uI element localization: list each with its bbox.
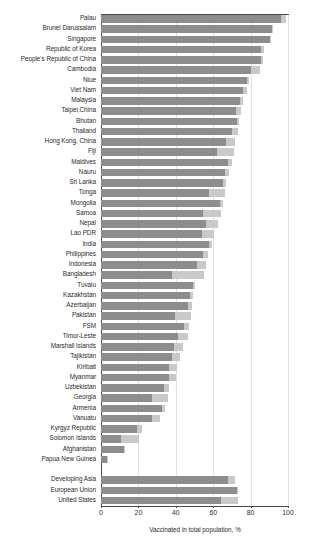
stacked-bar[interactable] [101, 487, 238, 495]
stacked-bar[interactable] [101, 138, 235, 146]
stacked-bar[interactable] [101, 374, 176, 382]
stacked-bar[interactable] [101, 241, 212, 249]
bar-segment-partially-vaccinated[interactable] [174, 343, 183, 351]
bar-segment-fully-vaccinated[interactable] [101, 374, 169, 382]
bar-segment-partially-vaccinated[interactable] [228, 159, 232, 167]
bar-segment-partially-vaccinated[interactable] [206, 220, 218, 228]
bar-segment-fully-vaccinated[interactable] [101, 292, 190, 300]
stacked-bar[interactable] [101, 107, 241, 115]
stacked-bar[interactable] [101, 405, 165, 413]
bar-segment-partially-vaccinated[interactable] [162, 405, 165, 413]
bar-segment-fully-vaccinated[interactable] [101, 487, 237, 495]
bar-segment-fully-vaccinated[interactable] [101, 261, 197, 269]
bar-segment-partially-vaccinated[interactable] [220, 200, 223, 208]
stacked-bar[interactable] [101, 384, 169, 392]
bar-segment-partially-vaccinated[interactable] [190, 292, 193, 300]
bar-segment-fully-vaccinated[interactable] [101, 241, 209, 249]
bar-segment-fully-vaccinated[interactable] [101, 497, 221, 505]
bar-segment-fully-vaccinated[interactable] [101, 138, 226, 146]
stacked-bar[interactable] [101, 179, 226, 187]
bar-segment-partially-vaccinated[interactable] [124, 446, 125, 454]
bar-segment-fully-vaccinated[interactable] [101, 107, 236, 115]
bar-segment-fully-vaccinated[interactable] [101, 15, 281, 23]
bar-segment-partially-vaccinated[interactable] [172, 353, 180, 361]
stacked-bar[interactable] [101, 312, 191, 320]
bar-segment-partially-vaccinated[interactable] [178, 333, 188, 341]
bar-segment-partially-vaccinated[interactable] [202, 230, 214, 238]
bar-segment-partially-vaccinated[interactable] [169, 364, 176, 372]
bar-segment-fully-vaccinated[interactable] [101, 343, 174, 351]
stacked-bar[interactable] [101, 343, 183, 351]
bar-segment-partially-vaccinated[interactable] [270, 36, 271, 44]
stacked-bar[interactable] [101, 87, 247, 95]
bar-segment-fully-vaccinated[interactable] [101, 118, 237, 126]
stacked-bar[interactable] [101, 36, 271, 44]
bar-segment-partially-vaccinated[interactable] [172, 271, 204, 279]
bar-segment-fully-vaccinated[interactable] [101, 77, 247, 85]
bar-segment-fully-vaccinated[interactable] [101, 333, 178, 341]
stacked-bar[interactable] [101, 15, 286, 23]
bar-segment-fully-vaccinated[interactable] [101, 282, 193, 290]
bar-segment-fully-vaccinated[interactable] [101, 148, 217, 156]
bar-segment-fully-vaccinated[interactable] [101, 230, 202, 238]
bar-segment-fully-vaccinated[interactable] [101, 364, 169, 372]
bar-segment-fully-vaccinated[interactable] [101, 87, 243, 95]
bar-segment-fully-vaccinated[interactable] [101, 220, 206, 228]
stacked-bar[interactable] [101, 25, 273, 33]
bar-segment-fully-vaccinated[interactable] [101, 66, 251, 74]
stacked-bar[interactable] [101, 118, 239, 126]
bar-segment-partially-vaccinated[interactable] [217, 148, 234, 156]
bar-segment-partially-vaccinated[interactable] [272, 25, 273, 33]
bar-segment-partially-vaccinated[interactable] [137, 425, 143, 433]
stacked-bar[interactable] [101, 497, 238, 505]
bar-segment-fully-vaccinated[interactable] [101, 405, 162, 413]
bar-segment-partially-vaccinated[interactable] [209, 189, 225, 197]
stacked-bar[interactable] [101, 446, 125, 454]
bar-segment-partially-vaccinated[interactable] [243, 87, 247, 95]
stacked-bar[interactable] [101, 220, 218, 228]
stacked-bar[interactable] [101, 271, 204, 279]
stacked-bar[interactable] [101, 425, 142, 433]
bar-segment-fully-vaccinated[interactable] [101, 56, 261, 64]
bar-segment-partially-vaccinated[interactable] [223, 179, 226, 187]
bar-segment-fully-vaccinated[interactable] [101, 46, 261, 54]
bar-segment-partially-vaccinated[interactable] [228, 476, 235, 484]
bar-segment-partially-vaccinated[interactable] [232, 128, 238, 136]
stacked-bar[interactable] [101, 394, 168, 402]
bar-segment-partially-vaccinated[interactable] [203, 210, 221, 218]
bar-segment-partially-vaccinated[interactable] [225, 169, 229, 177]
bar-segment-partially-vaccinated[interactable] [261, 46, 264, 54]
bar-segment-fully-vaccinated[interactable] [101, 159, 228, 167]
bar-segment-fully-vaccinated[interactable] [101, 353, 172, 361]
stacked-bar[interactable] [101, 435, 139, 443]
bar-segment-partially-vaccinated[interactable] [152, 394, 168, 402]
bar-segment-partially-vaccinated[interactable] [184, 323, 189, 331]
bar-segment-partially-vaccinated[interactable] [261, 56, 263, 64]
bar-segment-fully-vaccinated[interactable] [101, 97, 240, 105]
bar-segment-fully-vaccinated[interactable] [101, 128, 232, 136]
bar-segment-partially-vaccinated[interactable] [107, 456, 108, 464]
stacked-bar[interactable] [101, 210, 221, 218]
stacked-bar[interactable] [101, 128, 238, 136]
bar-segment-partially-vaccinated[interactable] [175, 312, 191, 320]
bar-segment-partially-vaccinated[interactable] [237, 118, 240, 126]
bar-segment-fully-vaccinated[interactable] [101, 36, 270, 44]
stacked-bar[interactable] [101, 148, 234, 156]
bar-segment-fully-vaccinated[interactable] [101, 476, 228, 484]
bar-segment-partially-vaccinated[interactable] [169, 374, 176, 382]
stacked-bar[interactable] [101, 46, 264, 54]
bar-segment-fully-vaccinated[interactable] [101, 394, 152, 402]
bar-segment-partially-vaccinated[interactable] [251, 66, 260, 74]
stacked-bar[interactable] [101, 323, 189, 331]
bar-segment-fully-vaccinated[interactable] [101, 425, 137, 433]
stacked-bar[interactable] [101, 302, 192, 310]
stacked-bar[interactable] [101, 97, 243, 105]
stacked-bar[interactable] [101, 415, 160, 423]
bar-segment-partially-vaccinated[interactable] [152, 415, 159, 423]
bar-segment-partially-vaccinated[interactable] [221, 497, 239, 505]
bar-segment-fully-vaccinated[interactable] [101, 435, 121, 443]
stacked-bar[interactable] [101, 333, 188, 341]
bar-segment-partially-vaccinated[interactable] [247, 77, 249, 85]
bar-segment-fully-vaccinated[interactable] [101, 169, 225, 177]
stacked-bar[interactable] [101, 251, 208, 259]
